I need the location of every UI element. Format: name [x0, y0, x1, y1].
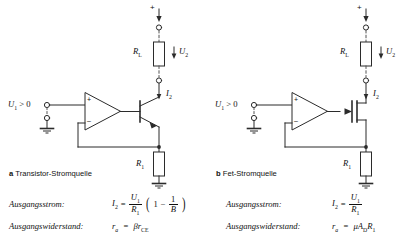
supply-terminal-a — [156, 25, 161, 30]
input-terminal-b — [251, 102, 256, 107]
equation-label-left-resistance: Ausgangswiderstand: — [9, 221, 83, 231]
load-resistor-label-b: RL — [340, 46, 349, 58]
supply-label-b: + — [357, 3, 362, 12]
output-current-label-b: I2 — [373, 88, 379, 100]
emitter-resistor-label-a: R1 — [136, 158, 144, 170]
opamp-minus-label-b: – — [294, 117, 298, 124]
input-terminal-gnd-a — [44, 115, 49, 120]
equation-left-current: I2 = U1 R1 ( 1 − 1 B ) — [112, 193, 187, 216]
emitter-resistor-a — [154, 152, 165, 176]
equation-label-left-current: Ausgangsstrom: — [9, 199, 65, 209]
opamp-minus-label-a: – — [87, 117, 91, 124]
output-current-label-a: I2 — [166, 88, 172, 100]
equation-left-resistance: ra = βrCE — [112, 221, 149, 233]
input-terminal-a — [44, 102, 49, 107]
input-label-a: U1 > 0 — [8, 99, 31, 111]
gate-arrow-b — [345, 108, 353, 114]
input-terminal-gnd-b — [251, 115, 256, 120]
source-resistor-label-b: R1 — [343, 158, 351, 170]
supply-label-a: + — [150, 3, 155, 12]
load-voltage-label-b: U2 — [386, 46, 395, 58]
load-resistor-b — [361, 42, 372, 66]
equation-label-right-resistance: Ausgangswiderstand: — [226, 221, 300, 231]
opamp-plus-label-a: + — [87, 96, 91, 103]
figure-current-sources: + RL U2 I2 U1 > 0 + – R1 a Transistor-St… — [0, 0, 417, 243]
load-voltage-label-a: U2 — [179, 46, 188, 58]
input-label-b: U1 > 0 — [215, 99, 238, 111]
equation-right-resistance: ra = μADR1 — [332, 221, 375, 233]
equation-label-right-current: Ausgangsstrom: — [226, 199, 282, 209]
panel-caption-b: b Fet-Stromquelle — [216, 169, 277, 178]
supply-terminal-b — [363, 25, 368, 30]
equation-right-current: I2 = U1 R1 — [332, 193, 362, 216]
load-resistor-a — [154, 42, 165, 66]
emitter-arrow-a — [150, 122, 157, 128]
load-resistor-label-a: RL — [133, 46, 142, 58]
load-terminal-b — [363, 78, 368, 83]
panel-caption-a: a Transistor-Stromquelle — [9, 169, 92, 178]
load-terminal-a — [156, 78, 161, 83]
source-resistor-b — [361, 152, 372, 176]
opamp-plus-label-b: + — [294, 96, 298, 103]
